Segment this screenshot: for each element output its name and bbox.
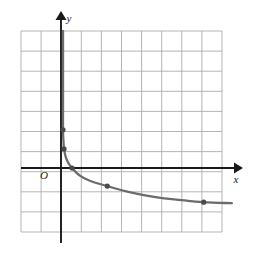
data-point-marker: [69, 165, 74, 170]
data-point-marker: [60, 127, 65, 132]
coordinate-plane-graph: O x y: [0, 0, 253, 253]
figure-root: O x y: [0, 0, 253, 253]
data-point-marker: [201, 200, 206, 205]
data-point-marker: [105, 183, 110, 188]
figure-background: [0, 0, 253, 253]
data-point-marker: [61, 146, 66, 151]
x-axis-label: x: [233, 173, 239, 185]
y-axis-label: y: [66, 12, 72, 24]
origin-label: O: [40, 169, 48, 181]
